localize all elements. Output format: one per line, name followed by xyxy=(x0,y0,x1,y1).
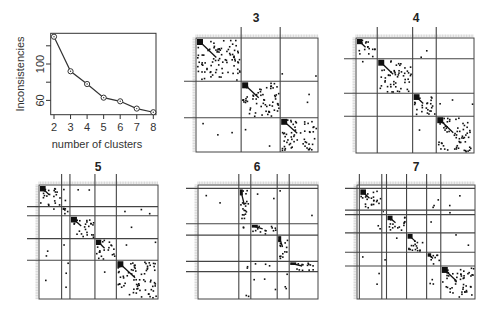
matrix-frame xyxy=(198,185,318,299)
data-point-marker xyxy=(101,95,106,100)
x-tick-label: 5 xyxy=(101,121,107,133)
data-point-marker xyxy=(68,69,73,74)
x-tick-label: 3 xyxy=(67,121,73,133)
series-markers xyxy=(51,34,155,115)
matrix-panel-3-clusters xyxy=(184,27,318,152)
data-point-marker xyxy=(118,99,123,104)
y-tick-label: 60 xyxy=(34,94,46,106)
cluster-dividers xyxy=(186,174,318,299)
panel-title-5: 5 xyxy=(95,160,102,174)
x-axis-ticks: 2345678 xyxy=(51,115,156,133)
matrix-panel-7-clusters xyxy=(345,174,475,299)
data-point-marker xyxy=(85,81,90,86)
panel-title-4: 4 xyxy=(413,11,420,25)
x-tick-label: 7 xyxy=(134,121,140,133)
matrix-panel-6-clusters xyxy=(186,174,318,299)
rug-ticks xyxy=(195,182,319,299)
x-axis-label: number of clusters xyxy=(52,138,143,150)
y-axis-label: Inconsistencies xyxy=(14,36,26,112)
y-tick-label: 100 xyxy=(34,55,46,73)
x-tick-label: 6 xyxy=(117,121,123,133)
matrix-frame xyxy=(357,185,475,299)
matrix-cells xyxy=(205,189,313,297)
inconsistency-line-chart: 60100 2345678 number of clusters Inconsi… xyxy=(14,33,156,150)
x-tick-label: 4 xyxy=(84,121,90,133)
matrix-cells xyxy=(197,39,317,151)
inconsistency-series-line xyxy=(54,37,153,113)
matrix-panel-5-clusters xyxy=(27,174,158,299)
matrix-cells xyxy=(360,189,474,297)
matrix-cells xyxy=(40,186,157,299)
panel-title-7: 7 xyxy=(413,160,420,174)
matrix-panel-4-clusters xyxy=(344,27,474,153)
line-chart-frame xyxy=(51,33,156,114)
matrix-cells xyxy=(357,39,473,152)
data-point-marker xyxy=(151,110,156,115)
data-point-marker xyxy=(134,106,139,111)
panel-title-6: 6 xyxy=(254,160,261,174)
data-point-marker xyxy=(51,34,56,39)
panel-title-3: 3 xyxy=(253,11,260,25)
x-tick-label: 2 xyxy=(51,121,57,133)
x-tick-label: 8 xyxy=(150,121,156,133)
y-axis-ticks: 60100 xyxy=(34,46,51,107)
figure: 60100 2345678 number of clusters Inconsi… xyxy=(0,0,495,317)
